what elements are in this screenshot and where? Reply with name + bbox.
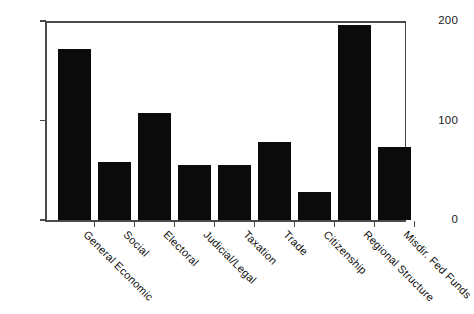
x-axis-label: Electoral	[161, 229, 200, 268]
x-tick-mark	[294, 221, 296, 227]
bar	[178, 165, 211, 220]
bar	[378, 147, 411, 220]
x-tick-mark	[94, 221, 96, 227]
x-axis-label: Taxation	[241, 229, 279, 267]
y-tick-label: 200	[422, 15, 458, 27]
bar	[98, 162, 131, 220]
y-tick-label: 100	[422, 115, 458, 127]
bar	[298, 192, 331, 220]
x-tick-mark	[214, 221, 216, 227]
x-axis-label: Trade	[281, 229, 310, 258]
x-axis-line	[45, 220, 406, 222]
plot-area	[45, 21, 406, 220]
y-tick-label: 0	[422, 214, 458, 226]
x-axis-label: Misdir. Fed Funds	[401, 229, 473, 301]
x-tick-mark	[174, 221, 176, 227]
x-tick-mark	[414, 221, 416, 227]
x-axis-label: General Economic	[81, 229, 155, 303]
x-axis-label: Social	[121, 229, 151, 259]
x-tick-mark	[254, 221, 256, 227]
bar	[218, 165, 251, 220]
x-tick-mark	[334, 221, 336, 227]
bar	[58, 49, 91, 220]
x-axis-label: Regional Structure	[361, 229, 436, 304]
x-tick-mark	[134, 221, 136, 227]
x-tick-mark	[374, 221, 376, 227]
bar	[338, 25, 371, 220]
bar	[258, 142, 291, 220]
bar	[138, 113, 171, 220]
